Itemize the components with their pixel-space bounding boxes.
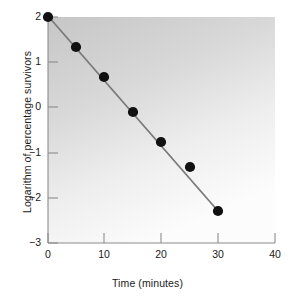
x-tick-label-20: 20 bbox=[146, 248, 176, 260]
x-tick-label-40: 40 bbox=[260, 248, 290, 260]
data-point bbox=[156, 137, 166, 147]
y-axis-title-wrapper: Logarithm of percentage survivors bbox=[21, 17, 35, 247]
x-tick-label-10: 10 bbox=[89, 248, 119, 260]
data-point bbox=[128, 107, 138, 117]
y-axis-title: Logarithm of percentage survivors bbox=[21, 17, 33, 247]
x-tick-label-30: 30 bbox=[203, 248, 233, 260]
plot-background bbox=[48, 17, 275, 243]
chart-figure: 2 1 0 −1 −2 −3 0 10 20 30 40 Time (minut… bbox=[0, 0, 295, 299]
data-point bbox=[99, 72, 109, 82]
data-point bbox=[71, 42, 81, 52]
x-axis-title: Time (minutes) bbox=[0, 277, 295, 289]
data-point bbox=[43, 12, 53, 22]
x-tick-label-0: 0 bbox=[33, 248, 63, 260]
data-point bbox=[185, 162, 195, 172]
data-point bbox=[213, 206, 223, 216]
